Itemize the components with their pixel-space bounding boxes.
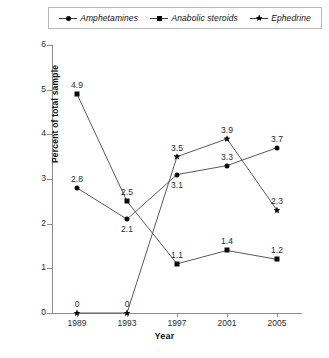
y-tick (47, 45, 52, 46)
data-point-label: 3.7 (271, 134, 283, 144)
circle-marker-icon (175, 172, 180, 177)
y-tick-label: 3 (32, 173, 46, 183)
data-point-label: 2.3 (271, 196, 283, 206)
legend-item-ephedrine: Ephedrine (250, 13, 311, 23)
square-marker-icon (150, 18, 168, 19)
circle-marker-icon (275, 145, 280, 150)
data-point-label: 1.4 (221, 236, 233, 246)
y-tick-label: 6 (32, 39, 46, 49)
x-tick-label: 1997 (168, 318, 187, 328)
square-marker-icon (225, 248, 230, 253)
x-tick-label: 2001 (218, 318, 237, 328)
x-axis-label: Year (0, 331, 329, 341)
x-tick-label: 1989 (68, 318, 87, 328)
star-marker-icon (174, 153, 181, 160)
chart-legend: Amphetamines Anabolic steroids Ephedrine (48, 7, 322, 29)
data-point-label: 2.5 (121, 187, 133, 197)
y-axis-label: Percent of total sample (50, 65, 60, 163)
square-marker-icon (175, 261, 180, 266)
x-tick-label: 2005 (268, 318, 287, 328)
data-point-label: 1.1 (171, 250, 183, 260)
data-point-label: 4.9 (71, 80, 83, 90)
legend-label: Ephedrine (271, 13, 311, 23)
x-tick (177, 313, 178, 317)
x-tick (277, 313, 278, 317)
star-marker-icon (224, 135, 231, 142)
circle-marker-icon (59, 18, 77, 19)
star-marker-icon (274, 207, 281, 214)
y-tick (47, 313, 52, 314)
circle-marker-icon (75, 185, 80, 190)
star-marker-icon (74, 310, 81, 317)
legend-item-anabolic-steroids: Anabolic steroids (150, 13, 237, 23)
data-point-label: 3.3 (221, 152, 233, 162)
x-tick (227, 313, 228, 317)
star-marker-icon (250, 18, 268, 19)
data-point-label: 2.1 (121, 224, 133, 234)
y-tick (47, 268, 52, 269)
data-point-label: 3.5 (171, 143, 183, 153)
data-point-label: 0 (75, 299, 80, 309)
data-point-label: 3.9 (221, 125, 233, 135)
y-tick-label: 5 (32, 84, 46, 94)
y-tick (47, 224, 52, 225)
y-tick-label: 4 (32, 128, 46, 138)
data-point-label: 3.1 (171, 180, 183, 190)
legend-label: Amphetamines (80, 13, 138, 23)
circle-marker-icon (125, 217, 130, 222)
legend-item-amphetamines: Amphetamines (59, 13, 138, 23)
legend-label: Anabolic steroids (171, 13, 237, 23)
y-tick-label: 0 (32, 307, 46, 317)
circle-marker-icon (225, 163, 230, 168)
star-marker-icon (124, 310, 131, 317)
square-marker-icon (125, 199, 130, 204)
y-tick-label: 1 (32, 262, 46, 272)
x-tick-label: 1993 (118, 318, 137, 328)
square-marker-icon (75, 92, 80, 97)
square-marker-icon (275, 257, 280, 262)
data-point-label: 0 (125, 299, 130, 309)
data-point-label: 2.8 (71, 174, 83, 184)
y-tick (47, 179, 52, 180)
data-point-label: 1.2 (271, 245, 283, 255)
y-tick-label: 2 (32, 218, 46, 228)
